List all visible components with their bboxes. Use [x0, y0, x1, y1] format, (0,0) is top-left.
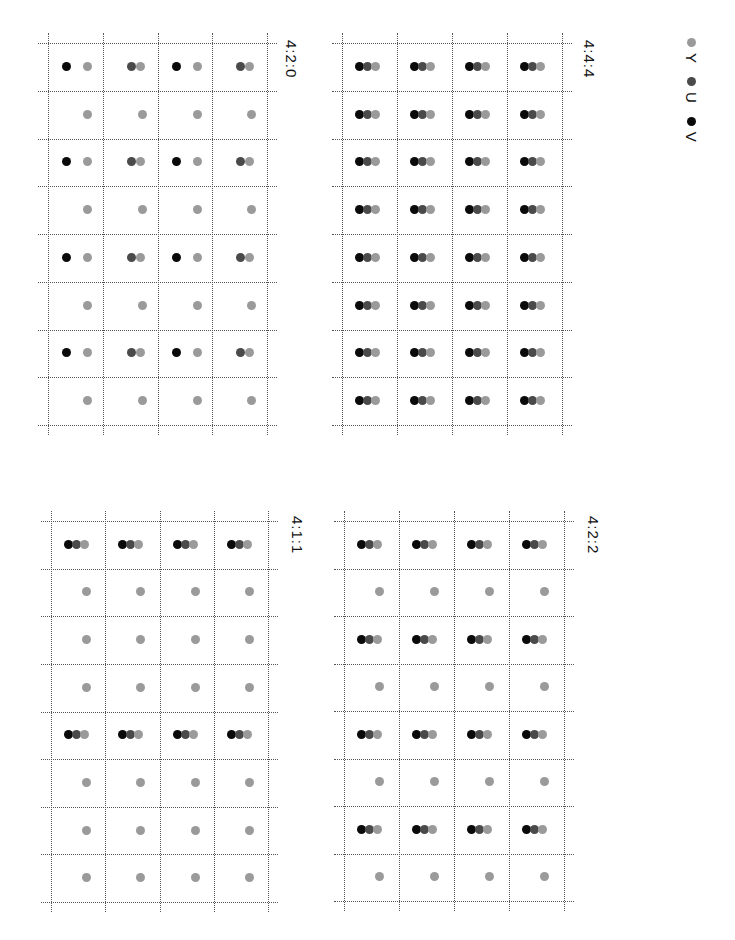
u-sample-dot-icon	[127, 157, 136, 166]
panel-label-411: 4:1:1	[289, 516, 306, 554]
y-sample-dot-icon	[371, 253, 380, 262]
sample-cell	[452, 139, 507, 187]
y-sample-dot-icon	[426, 348, 435, 357]
sample-cell	[452, 330, 507, 378]
y-sample-dot-icon	[375, 777, 384, 786]
y-sample-dot-icon	[83, 396, 92, 405]
grid-line-vertical	[564, 511, 565, 911]
sample-cell	[344, 711, 399, 759]
y-sample-dot-icon	[375, 872, 384, 881]
sample-cell	[454, 521, 509, 569]
v-sample-dot-icon	[172, 253, 181, 262]
sample-cell	[342, 43, 397, 91]
legend-item-u: U	[683, 77, 700, 103]
sample-cell	[342, 186, 397, 234]
sample-cell	[212, 139, 267, 187]
y-sample-dot-icon	[245, 778, 254, 787]
sample-cell	[48, 234, 103, 282]
sample-cell	[344, 806, 399, 854]
legend-label-y: Y	[683, 53, 700, 63]
sample-cell	[342, 330, 397, 378]
y-sample-dot-icon	[191, 826, 200, 835]
y-sample-dot-icon	[430, 682, 439, 691]
y-sample-dot-icon	[538, 540, 547, 549]
y-sample-dot-icon	[536, 253, 545, 262]
sample-cell	[103, 186, 158, 234]
sample-cell	[212, 282, 267, 330]
y-sample-dot-icon	[536, 110, 545, 119]
y-sample-dot-icon	[536, 396, 545, 405]
y-sample-dot-icon	[245, 683, 254, 692]
sample-cell	[399, 664, 454, 712]
legend: Y U V	[683, 38, 700, 156]
sample-cell	[397, 139, 452, 187]
sample-cell	[51, 854, 105, 902]
sample-cell	[507, 43, 562, 91]
y-sample-dot-icon	[245, 587, 254, 596]
sample-cell	[158, 282, 213, 330]
sample-cell	[105, 664, 159, 712]
v-sample-dot-icon	[62, 62, 71, 71]
y-sample-dot-icon	[428, 635, 437, 644]
y-sample-dot-icon	[371, 110, 380, 119]
y-sample-dot-icon	[193, 62, 202, 71]
sample-cell	[214, 569, 268, 617]
sample-cell	[399, 616, 454, 664]
u-sample-dot-icon	[236, 253, 245, 262]
legend-label-u: U	[683, 92, 700, 103]
y-sample-dot-icon	[243, 540, 252, 549]
sample-cell	[51, 712, 105, 760]
grid-line-vertical	[562, 33, 563, 435]
sample-cell	[158, 186, 213, 234]
y-sample-dot-icon	[136, 873, 145, 882]
y-sample-dot-icon	[136, 348, 145, 357]
sample-cell	[105, 521, 159, 569]
u-sample-dot-icon	[236, 157, 245, 166]
panel-label-444: 4:4:4	[581, 40, 598, 78]
y-sample-dot-icon	[193, 110, 202, 119]
sample-cell	[454, 616, 509, 664]
y-sample-dot-icon	[373, 635, 382, 644]
y-sample-dot-icon	[245, 157, 254, 166]
y-sample-dot-icon	[138, 396, 147, 405]
sample-cell	[160, 664, 214, 712]
y-sample-dot-icon	[193, 205, 202, 214]
sample-cell	[103, 234, 158, 282]
sample-cell	[158, 377, 213, 425]
sample-cell	[214, 807, 268, 855]
sample-cell	[103, 139, 158, 187]
v-sample-dot-icon	[172, 348, 181, 357]
sample-cell	[48, 377, 103, 425]
y-sample-dot-icon	[371, 205, 380, 214]
sample-cell	[452, 282, 507, 330]
y-sample-dot-icon	[426, 110, 435, 119]
legend-item-v: V	[683, 117, 700, 142]
y-sample-dot-icon	[247, 110, 256, 119]
y-sample-dot-icon	[136, 635, 145, 644]
sample-cell	[160, 712, 214, 760]
sample-cell	[105, 759, 159, 807]
y-sample-dot-icon	[136, 826, 145, 835]
sample-cell	[160, 521, 214, 569]
sample-cell	[212, 330, 267, 378]
u-sample-dot-icon	[236, 348, 245, 357]
y-sample-dot-icon	[430, 587, 439, 596]
y-sample-dot-icon	[371, 396, 380, 405]
y-sample-dot-icon	[538, 730, 547, 739]
sample-cell	[51, 664, 105, 712]
y-sample-dot-icon	[82, 873, 91, 882]
sample-cell	[454, 664, 509, 712]
sample-cell	[344, 854, 399, 902]
v-sample-dot-icon	[62, 157, 71, 166]
y-sample-dot-icon	[426, 62, 435, 71]
grid-444	[342, 43, 562, 425]
sample-cell	[48, 43, 103, 91]
sample-cell	[160, 807, 214, 855]
y-sample-dot-icon	[371, 62, 380, 71]
sample-cell	[509, 711, 564, 759]
u-sample-dot-icon	[127, 62, 136, 71]
sample-cell	[344, 616, 399, 664]
sample-cell	[105, 854, 159, 902]
y-sample-dot-icon	[481, 205, 490, 214]
sample-cell	[397, 186, 452, 234]
